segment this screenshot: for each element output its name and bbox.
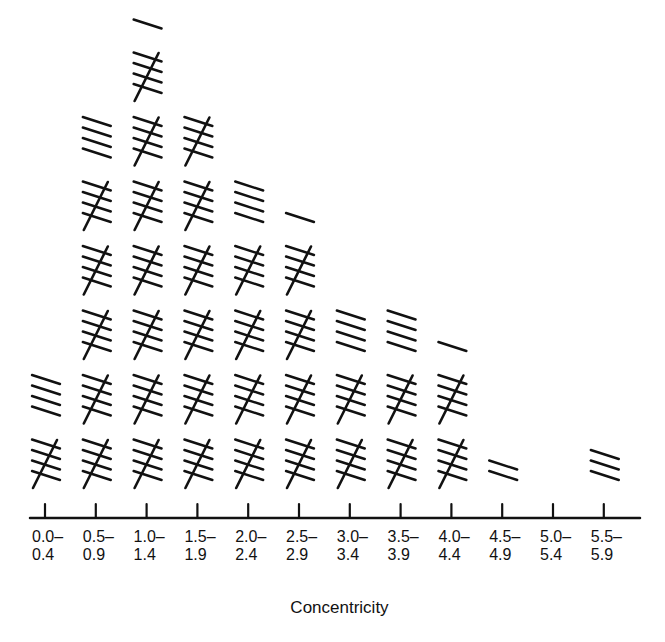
x-tick-label: 2.0–2.4 bbox=[235, 528, 287, 564]
x-tick-label-end: 5.4 bbox=[540, 546, 592, 564]
tally-column-1.5–1.9 bbox=[184, 117, 212, 488]
x-tick-label-start: 1.0– bbox=[134, 528, 186, 546]
x-tick-label: 0.0–0.4 bbox=[32, 528, 84, 564]
tally-column-1.0–1.4 bbox=[134, 20, 162, 489]
tally-column-5.5–5.9 bbox=[591, 450, 619, 480]
x-tick-label-end: 3.4 bbox=[337, 546, 389, 564]
x-tick-label: 3.5–3.9 bbox=[388, 528, 440, 564]
x-tick-label-start: 5.5– bbox=[591, 528, 643, 546]
x-tick-label-start: 1.5– bbox=[184, 528, 236, 546]
tally-column-4.0–4.4 bbox=[438, 342, 466, 488]
x-tick-label: 5.5–5.9 bbox=[591, 528, 643, 564]
tally-column-0.5–0.9 bbox=[83, 117, 111, 488]
x-tick-label-end: 2.4 bbox=[235, 546, 287, 564]
tally-column-0.0–0.4 bbox=[32, 375, 60, 488]
x-tick-label: 4.0–4.4 bbox=[438, 528, 490, 564]
tally-column-4.5–4.9 bbox=[489, 461, 517, 481]
x-tick-label-end: 1.4 bbox=[134, 546, 186, 564]
x-tick-label: 5.0–5.4 bbox=[540, 528, 592, 564]
x-tick-label-end: 1.9 bbox=[184, 546, 236, 564]
x-tick-label-start: 2.5– bbox=[286, 528, 338, 546]
x-tick-label-end: 4.9 bbox=[489, 546, 541, 564]
x-tick-label: 3.0–3.4 bbox=[337, 528, 389, 564]
x-tick-label-start: 3.5– bbox=[388, 528, 440, 546]
x-tick-label: 1.5–1.9 bbox=[184, 528, 236, 564]
x-axis-title-text: Concentricity bbox=[290, 598, 388, 617]
x-tick-label-start: 5.0– bbox=[540, 528, 592, 546]
x-tick-label-end: 3.9 bbox=[388, 546, 440, 564]
x-tick-label-start: 0.5– bbox=[83, 528, 135, 546]
x-tick-label: 1.0–1.4 bbox=[134, 528, 186, 564]
tally-chart: 0.0–0.40.5–0.91.0–1.41.5–1.92.0–2.42.5–2… bbox=[0, 0, 665, 642]
x-axis-title: Concentricity bbox=[0, 598, 665, 618]
tally-column-2.0–2.4 bbox=[235, 182, 263, 489]
x-tick-label-start: 3.0– bbox=[337, 528, 389, 546]
x-tick-label-end: 2.9 bbox=[286, 546, 338, 564]
tally-column-3.0–3.4 bbox=[337, 311, 365, 489]
x-tick-label-start: 2.0– bbox=[235, 528, 287, 546]
tally-column-2.5–2.9 bbox=[286, 213, 314, 488]
x-tick-label-start: 0.0– bbox=[32, 528, 84, 546]
x-tick-label: 0.5–0.9 bbox=[83, 528, 135, 564]
x-tick-label: 2.5–2.9 bbox=[286, 528, 338, 564]
x-tick-label-end: 4.4 bbox=[438, 546, 490, 564]
x-tick-label-end: 0.4 bbox=[32, 546, 84, 564]
x-tick-label-end: 0.9 bbox=[83, 546, 135, 564]
x-tick-label-end: 5.9 bbox=[591, 546, 643, 564]
x-tick-label: 4.5–4.9 bbox=[489, 528, 541, 564]
x-tick-label-start: 4.0– bbox=[438, 528, 490, 546]
tally-column-3.5–3.9 bbox=[388, 311, 416, 489]
x-tick-label-start: 4.5– bbox=[489, 528, 541, 546]
